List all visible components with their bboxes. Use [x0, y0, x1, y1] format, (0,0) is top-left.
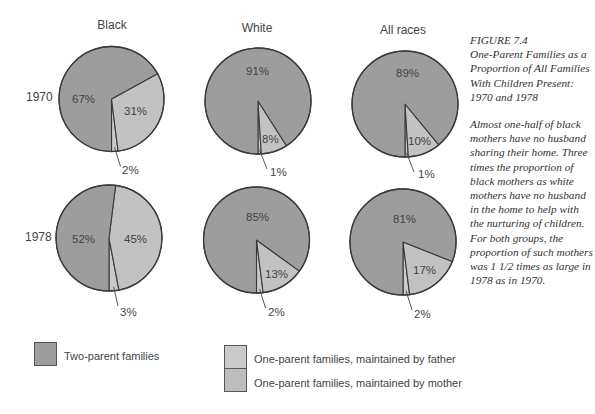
label-all-1978-mother: 17%	[413, 264, 436, 276]
pie-black-1970	[59, 47, 164, 167]
legend-label-father: One-parent families, maintained by fathe…	[254, 353, 456, 365]
label-black-1978-father: 3%	[120, 306, 137, 318]
pie-white-1978	[204, 187, 310, 308]
legend-swatch-father	[224, 345, 247, 369]
label-black-1978-two-parent: 52%	[72, 233, 95, 245]
label-white-1978-mother: 13%	[265, 268, 288, 280]
label-black-1970-two-parent: 67%	[72, 93, 95, 105]
label-all-1970-two-parent: 89%	[396, 67, 419, 79]
label-white-1970-father: 1%	[270, 166, 287, 178]
figure-number: FIGURE 7.4	[470, 33, 595, 47]
legend-swatch-two-parent	[34, 342, 57, 366]
legend-label-mother: One-parent families, maintained by mothe…	[254, 377, 462, 389]
label-all-1978-father: 2%	[414, 308, 431, 320]
figure-description: Almost one-half of black mothers have no…	[470, 117, 595, 287]
pie-black-1978	[56, 185, 162, 306]
figure-title: One-Parent Families as a Proportion of A…	[470, 47, 595, 104]
label-black-1978-mother: 45%	[124, 233, 147, 245]
label-black-1970-mother: 31%	[124, 105, 147, 117]
label-all-1970-father: 1%	[418, 168, 435, 180]
figure-caption: FIGURE 7.4 One-Parent Families as a Prop…	[470, 33, 595, 287]
label-black-1970-father: 2%	[122, 164, 139, 176]
label-white-1970-mother: 8%	[262, 133, 279, 145]
label-white-1970-two-parent: 91%	[246, 65, 269, 77]
label-all-1970-mother: 10%	[408, 135, 431, 147]
legend-swatch-mother	[224, 368, 247, 392]
label-white-1978-two-parent: 85%	[246, 211, 269, 223]
pie-all-races-1978	[350, 189, 456, 310]
label-white-1978-father: 2%	[268, 306, 285, 318]
label-all-1978-two-parent: 81%	[393, 213, 416, 225]
legend-label-two-parent: Two-parent families	[64, 350, 159, 362]
